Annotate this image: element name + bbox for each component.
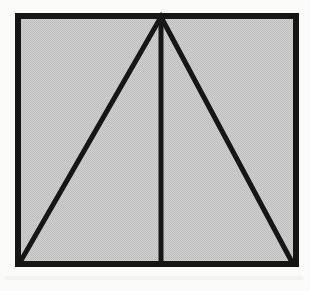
scan-streak bbox=[4, 276, 304, 280]
triangle-sides bbox=[19, 17, 293, 264]
scanned-page bbox=[0, 0, 310, 291]
geometry-figure bbox=[0, 0, 310, 291]
square-outline bbox=[18, 16, 296, 264]
